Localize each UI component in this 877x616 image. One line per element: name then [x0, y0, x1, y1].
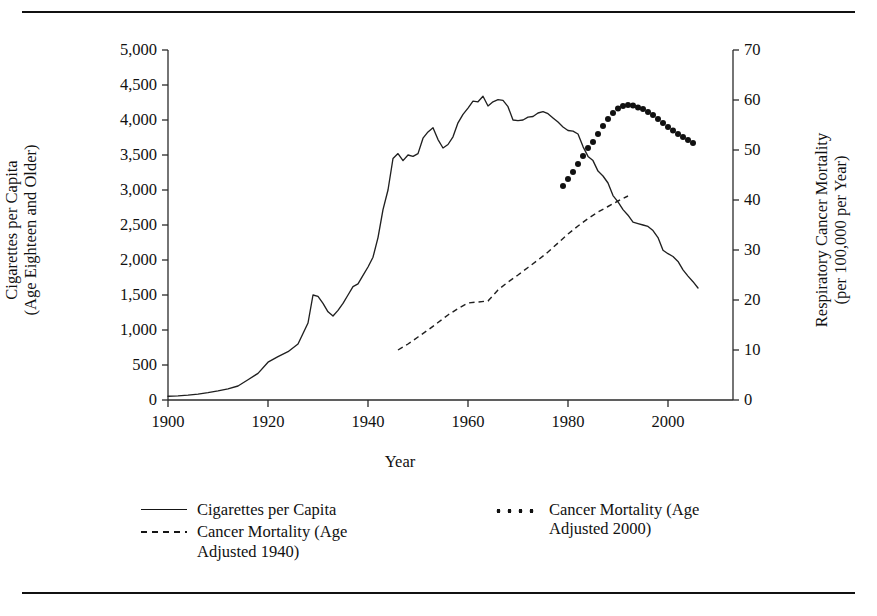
left-tick-label: 2,500 [120, 217, 157, 234]
left-axis-title-line2: (Age Eighteen and Older) [21, 145, 40, 316]
legend-label-cancer-mortality-1940-line2: Adjusted 1940) [141, 542, 441, 561]
right-axis-title-line1: Respiratory Cancer Mortality [812, 133, 831, 327]
legend-item-cancer-mortality-1940: Cancer Mortality (Age Adjusted 1940) [141, 522, 441, 561]
right-axis-title: Respiratory Cancer Mortality (per 100,00… [812, 133, 850, 327]
right-axis-ticks [733, 50, 739, 400]
legend-item-cigarettes-per-capita: Cigarettes per Capita [141, 500, 441, 519]
left-tick-label: 1,500 [120, 287, 157, 304]
series-cancer-mortality-2000 [560, 102, 696, 189]
x-tick-label: 1920 [252, 414, 285, 431]
right-tick-label: 0 [744, 392, 752, 409]
bottom-axis-ticks [168, 400, 668, 407]
x-tick-label: 1960 [452, 414, 485, 431]
right-tick-label: 30 [744, 242, 761, 259]
legend-column-right: Cancer Mortality (Age Adjusted 2000) [493, 500, 763, 542]
left-tick-label: 5,000 [120, 42, 157, 59]
left-tick-label: 4,000 [120, 112, 157, 129]
left-tick-label: 3,000 [120, 182, 157, 199]
right-axis-title-line2: (per 100,000 per Year) [831, 156, 850, 305]
right-tick-label: 40 [744, 192, 761, 209]
left-tick-label: 4,500 [120, 77, 157, 94]
dashed-line-swatch-icon [141, 531, 187, 533]
series-cigarettes-per-capita [168, 96, 698, 396]
right-tick-label: 20 [744, 292, 761, 309]
legend-item-cancer-mortality-2000: Cancer Mortality (Age Adjusted 2000) [493, 500, 763, 539]
legend-column-left: Cigarettes per Capita Cancer Mortality (… [141, 500, 441, 564]
left-tick-label: 3,500 [120, 147, 157, 164]
left-axis-title-line1: Cigarettes per Capita [2, 160, 21, 299]
axes [162, 50, 739, 407]
data-series [168, 96, 698, 396]
left-tick-label: 0 [149, 392, 157, 409]
x-tick-label: 1980 [552, 414, 585, 431]
figure-container: 05001,0001,5002,0002,5003,0003,5004,0004… [0, 0, 877, 616]
right-tick-label: 70 [744, 42, 761, 59]
left-axis-ticks [162, 50, 168, 400]
right-tick-label: 50 [744, 142, 761, 159]
series-cancer-mortality-1940 [398, 196, 628, 350]
left-axis-title: Cigarettes per Capita (Age Eighteen and … [2, 145, 40, 316]
x-tick-label: 1940 [352, 414, 385, 431]
right-tick-label: 10 [744, 342, 761, 359]
legend-label-cancer-mortality-2000-line2: Adjusted 2000) [493, 519, 763, 538]
left-tick-label: 500 [132, 357, 157, 374]
right-tick-label: 60 [744, 92, 761, 109]
dotted-line-swatch-icon [493, 508, 539, 514]
solid-line-swatch-icon [141, 509, 187, 512]
x-tick-label: 1900 [152, 414, 185, 431]
left-tick-label: 2,000 [120, 252, 157, 269]
left-tick-label: 1,000 [120, 322, 157, 339]
x-tick-label: 2000 [652, 414, 685, 431]
x-axis-title: Year [385, 452, 415, 471]
